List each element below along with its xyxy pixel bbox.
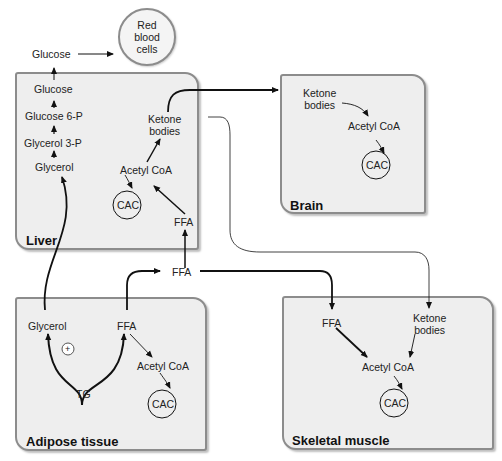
liver-glycerol-label: Glycerol: [35, 161, 74, 173]
brain-acetylcoa-label: Acetyl CoA: [348, 120, 400, 132]
adipose-title: Adipose tissue: [26, 434, 118, 449]
bodies-word: bodies: [304, 99, 335, 111]
liver-acetylcoa-label: Acetyl CoA: [120, 164, 172, 176]
liver-ketone-label: Ketonebodies: [148, 113, 181, 137]
adipose-ffa-label: FFA: [117, 320, 136, 332]
adipose-tg-label: TG: [76, 388, 91, 400]
bodies-word: bodies: [149, 125, 180, 137]
liver-cac-label: CAC: [117, 199, 139, 211]
liver-glucose-label: Glucose: [34, 83, 73, 95]
bodies-word: bodies: [414, 324, 445, 336]
ketone-word: Ketone: [303, 87, 336, 99]
muscle-acetylcoa-label: Acetyl CoA: [362, 361, 414, 373]
brain-ketone-label: Ketonebodies: [303, 87, 336, 111]
muscle-ketone-label: Ketonebodies: [413, 312, 446, 336]
liver-ffa-label: FFA: [174, 216, 193, 228]
brain-title: Brain: [290, 198, 323, 213]
muscle-cac-label: CAC: [384, 397, 406, 409]
liver-title: Liver: [26, 233, 57, 248]
adipose-cac-label: CAC: [152, 398, 174, 410]
muscle-title: Skeletal muscle: [292, 433, 390, 448]
brain-cac-label: CAC: [366, 159, 388, 171]
ketone-word: Ketone: [148, 113, 181, 125]
adipose-acetylcoa-label: Acetyl CoA: [137, 360, 189, 372]
ketone-word: Ketone: [413, 312, 446, 324]
blood-ffa-label: FFA: [172, 266, 191, 278]
liver-glucose6p-label: Glucose 6-P: [25, 110, 83, 122]
blood-glucose-label: Glucose: [32, 48, 71, 60]
adipose-plus-label: +: [65, 343, 70, 355]
liver-glycerol3p-label: Glycerol 3-P: [24, 137, 82, 149]
adipose-glycerol-label: Glycerol: [28, 320, 67, 332]
muscle-ffa-label: FFA: [322, 317, 341, 329]
